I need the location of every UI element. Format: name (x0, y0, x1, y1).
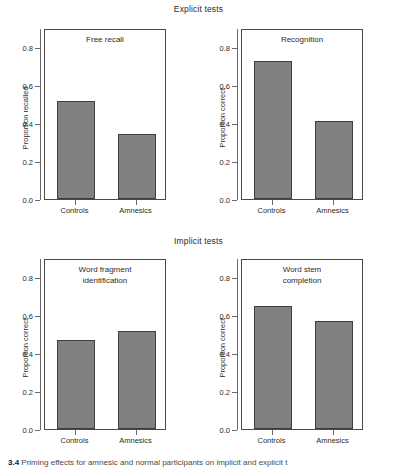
x-tick-label: Controls (258, 437, 286, 445)
y-tick-label: 0.8 (23, 275, 33, 283)
y-tick-label: 0.8 (220, 275, 230, 283)
y-tick: 0.2 (232, 162, 237, 163)
y-tick-label: 0.4 (23, 351, 33, 359)
figure-caption-text: Priming effects for amnesic and normal p… (21, 458, 287, 467)
panel-label: Word fragment identification (44, 265, 166, 286)
x-tick (75, 200, 76, 205)
y-tick: 0.4 (232, 124, 237, 125)
y-axis-spine (40, 259, 41, 430)
plot-area (241, 29, 363, 200)
x-tick (75, 430, 76, 435)
y-tick: 0.6 (35, 86, 40, 87)
y-tick-label: 0.4 (220, 351, 230, 359)
x-tick (136, 200, 137, 205)
bar-controls (57, 101, 95, 199)
y-tick-label: 0.0 (220, 427, 230, 435)
y-tick: 0.0 (232, 430, 237, 431)
panel-label: Free recall (44, 35, 166, 46)
x-tick-label: Amnesics (119, 207, 152, 215)
x-tick-label: Amnesics (119, 437, 152, 445)
figure-root: Explicit tests Implicit tests Proportion… (0, 0, 397, 467)
panel-free-recall: Proportion recalled Free recall 0.00.20.… (8, 26, 172, 222)
x-tick (333, 430, 334, 435)
y-tick: 0.4 (35, 354, 40, 355)
bar-amnesics (315, 121, 353, 199)
x-tick-label: Controls (258, 207, 286, 215)
y-tick-label: 0.2 (220, 389, 230, 397)
y-tick-label: 0.6 (220, 313, 230, 321)
panel-label-line: Recognition (241, 35, 363, 46)
y-tick-label: 0.2 (23, 159, 33, 167)
x-tick-label: Controls (61, 437, 89, 445)
y-axis-spine (237, 259, 238, 430)
y-tick-label: 0.2 (220, 159, 230, 167)
y-tick: 0.6 (35, 316, 40, 317)
y-tick-label: 0.0 (23, 427, 33, 435)
bar-amnesics (315, 321, 353, 429)
y-tick: 0.6 (232, 316, 237, 317)
panel-label-line: Free recall (44, 35, 166, 46)
bar-controls (254, 306, 292, 429)
x-tick (272, 200, 273, 205)
y-tick: 0.8 (35, 48, 40, 49)
bar-controls (254, 61, 292, 199)
figure-caption: 3.4 Priming effects for amnesic and norm… (8, 458, 397, 467)
group-title-implicit: Implicit tests (0, 236, 397, 246)
x-tick-label: Controls (61, 207, 89, 215)
panel-label: Recognition (241, 35, 363, 46)
y-tick-label: 0.0 (220, 197, 230, 205)
y-axis-spine (40, 29, 41, 200)
y-tick-label: 0.4 (220, 121, 230, 129)
x-tick (272, 430, 273, 435)
y-tick: 0.4 (35, 124, 40, 125)
y-tick: 0.0 (232, 200, 237, 201)
x-tick (333, 200, 334, 205)
y-tick: 0.0 (35, 200, 40, 201)
panel-word-fragment-identification: Proportion correct Word fragment identif… (8, 256, 172, 452)
x-tick-label: Amnesics (316, 207, 349, 215)
y-tick-label: 0.6 (23, 83, 33, 91)
y-tick-label: 0.8 (23, 45, 33, 53)
plot-area (44, 29, 166, 200)
y-tick: 0.4 (232, 354, 237, 355)
y-tick-label: 0.2 (23, 389, 33, 397)
panel-label-line: Word stem (241, 265, 363, 276)
y-tick: 0.2 (232, 392, 237, 393)
bar-controls (57, 340, 95, 429)
y-tick-label: 0.6 (220, 83, 230, 91)
panel-word-stem-completion: Proportion correct Word stem completion … (205, 256, 369, 452)
y-tick: 0.0 (35, 430, 40, 431)
x-tick-label: Amnesics (316, 437, 349, 445)
bar-amnesics (118, 134, 156, 199)
figure-number: 3.4 (8, 458, 21, 467)
y-tick: 0.6 (232, 86, 237, 87)
y-tick: 0.2 (35, 162, 40, 163)
y-axis-spine (237, 29, 238, 200)
bar-amnesics (118, 331, 156, 429)
y-tick: 0.2 (35, 392, 40, 393)
x-tick (136, 430, 137, 435)
panel-recognition: Proportion correct Recognition 0.00.20.4… (205, 26, 369, 222)
y-tick-label: 0.6 (23, 313, 33, 321)
y-tick-label: 0.4 (23, 121, 33, 129)
panel-label: Word stem completion (241, 265, 363, 286)
y-tick-label: 0.0 (23, 197, 33, 205)
y-tick-label: 0.8 (220, 45, 230, 53)
group-title-explicit: Explicit tests (0, 4, 397, 14)
y-tick: 0.8 (232, 48, 237, 49)
panel-label-line: completion (241, 276, 363, 287)
panel-label-line: Word fragment (44, 265, 166, 276)
y-tick: 0.8 (35, 278, 40, 279)
y-tick: 0.8 (232, 278, 237, 279)
panel-label-line: identification (44, 276, 166, 287)
